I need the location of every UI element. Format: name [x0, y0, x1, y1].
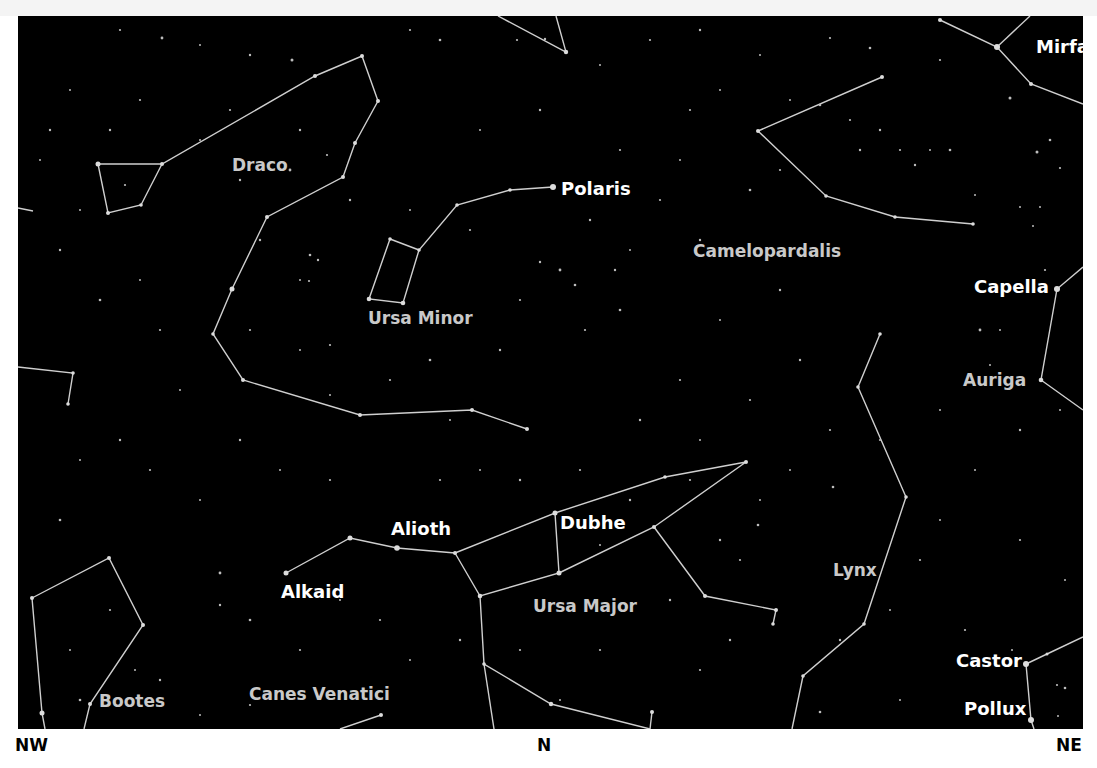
- constellation-label-bootes: Bootes: [99, 693, 165, 710]
- ursa-major-bowl: [455, 513, 559, 596]
- constellation-label-auriga: Auriga: [963, 372, 1026, 389]
- star-label-capella: Capella: [974, 278, 1049, 296]
- ursa-minor-lines: [369, 187, 553, 303]
- ursa-major-leg3: [484, 664, 494, 729]
- draco-head: [98, 164, 162, 213]
- constellation-label-ursa-minor: Ursa Minor: [368, 310, 473, 327]
- canes-venatici-lines: [340, 715, 381, 729]
- constellation-stars: [30, 18, 1060, 723]
- bootes-left: [32, 598, 45, 729]
- star-label-pollux: Pollux: [964, 700, 1026, 718]
- constellation-label-lynx: Lynx: [833, 562, 877, 579]
- star-label-alioth: Alioth: [391, 520, 451, 538]
- constellation-label-draco: Draco: [232, 157, 288, 174]
- ursa-major-leg4: [650, 712, 652, 729]
- star-label-alkaid: Alkaid: [281, 583, 344, 601]
- draco-lines: [98, 56, 527, 429]
- top-partial-lines: [498, 16, 566, 52]
- ursa-major-handle: [286, 538, 455, 573]
- lynx-lines: [792, 334, 906, 729]
- sky-chart: Polaris Mirfak Capella Alioth Dubhe Alka…: [18, 16, 1083, 729]
- star-label-dubhe: Dubhe: [560, 514, 626, 532]
- star-label-castor: Castor: [956, 652, 1022, 670]
- gemini-lines: [1026, 637, 1083, 729]
- constellation-lines: [18, 16, 1083, 729]
- ursa-major-leg1: [654, 527, 776, 624]
- top-margin-band: [0, 0, 1097, 16]
- constellation-label-camelopardalis: Camelopardalis: [693, 243, 841, 260]
- constellation-label-canes-venatici: Canes Venatici: [249, 686, 390, 703]
- star-label-mirfak: Mirfak: [1036, 38, 1083, 56]
- star-label-polaris: Polaris: [561, 180, 631, 198]
- edge-lines-left: [18, 367, 73, 404]
- compass-northeast: NE: [1056, 737, 1082, 754]
- constellation-label-ursa-major: Ursa Major: [533, 598, 637, 615]
- compass-northwest: NW: [15, 737, 48, 754]
- perseus-branch: [997, 16, 1030, 47]
- edge-lines-left-2: [18, 208, 33, 211]
- compass-north: N: [537, 737, 551, 754]
